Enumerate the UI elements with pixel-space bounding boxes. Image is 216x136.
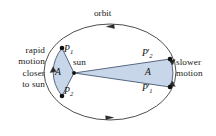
- orbit-direction-arrow-top: [107, 25, 115, 29]
- label-p1-prime: P′1: [142, 82, 152, 94]
- left-caption-line-2: motion: [0, 56, 45, 67]
- label-p2-letter: P: [64, 85, 70, 96]
- sun-point: [72, 71, 76, 75]
- label-p2: P2: [64, 85, 73, 97]
- left-caption: rapid motion closer to sun: [0, 45, 45, 91]
- swept-area-right: [74, 59, 173, 87]
- orbit-label: orbit: [94, 8, 111, 18]
- kepler-second-law-figure: rapid motion closer to sun slower motion…: [0, 0, 216, 136]
- label-p1-subscript: 1: [70, 48, 73, 55]
- label-p2-prime-subscript: 2: [149, 52, 152, 59]
- label-area-right: A: [145, 66, 151, 77]
- point-p2-prime: [168, 57, 173, 62]
- left-caption-line-4: to sun: [0, 79, 45, 90]
- point-p1-prime: [168, 85, 173, 90]
- label-p2-subscript: 2: [70, 90, 73, 97]
- left-caption-line-3: closer: [0, 68, 45, 79]
- label-p1: P1: [64, 43, 73, 55]
- label-p1-prime-subscript: 1: [149, 87, 152, 94]
- sun-label: sun: [73, 57, 86, 67]
- label-area-left: A: [55, 66, 61, 77]
- orbit-direction-arrow-bottom: [106, 116, 114, 120]
- label-p2-prime: P′2: [142, 47, 152, 59]
- left-caption-line-1: rapid: [0, 45, 45, 56]
- right-caption: slower motion: [176, 57, 216, 80]
- right-caption-line-1: slower: [176, 57, 216, 68]
- right-caption-line-2: motion: [176, 68, 216, 79]
- label-p1-letter: P: [64, 43, 70, 54]
